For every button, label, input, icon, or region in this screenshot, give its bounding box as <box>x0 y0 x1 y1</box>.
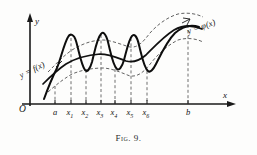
upper-envelope-curve <box>48 13 203 72</box>
tick-label-subscript: 4 <box>114 113 117 119</box>
tick-label-subscript: 5 <box>130 113 133 119</box>
tick-label-base: a <box>53 107 57 117</box>
tick-label-base: b <box>186 107 190 117</box>
caption-text: Fig. 9. <box>115 133 141 143</box>
x-tick-label-x4: x4 <box>111 107 118 119</box>
tick-label-subscript: 3 <box>100 113 103 119</box>
y-axis-label: y <box>35 16 39 26</box>
tick-label-subscript: 6 <box>146 113 149 119</box>
x-axis-arrowhead <box>227 101 236 107</box>
figure-container: y x O y = f(x) y = φ(x) ax1x2x3x4x5x6b F… <box>0 0 257 155</box>
figure-caption: Fig. 9. <box>0 133 257 143</box>
x-axis-label: x <box>223 90 227 100</box>
x-tick-label-x6: x6 <box>143 107 150 119</box>
tick-label-subscript: 1 <box>70 113 73 119</box>
x-tick-label-x2: x2 <box>82 107 89 119</box>
phi-curve <box>43 26 202 84</box>
x-tick-label-x5: x5 <box>127 107 134 119</box>
y-axis-arrowhead <box>27 13 33 22</box>
origin-label: O <box>19 104 26 114</box>
tick-label-subscript: 2 <box>85 113 88 119</box>
x-tick-label-x1: x1 <box>67 107 74 119</box>
x-tick-label-a: a <box>53 107 57 117</box>
x-tick-label-x3: x3 <box>97 107 104 119</box>
x-tick-label-b: b <box>186 107 190 117</box>
